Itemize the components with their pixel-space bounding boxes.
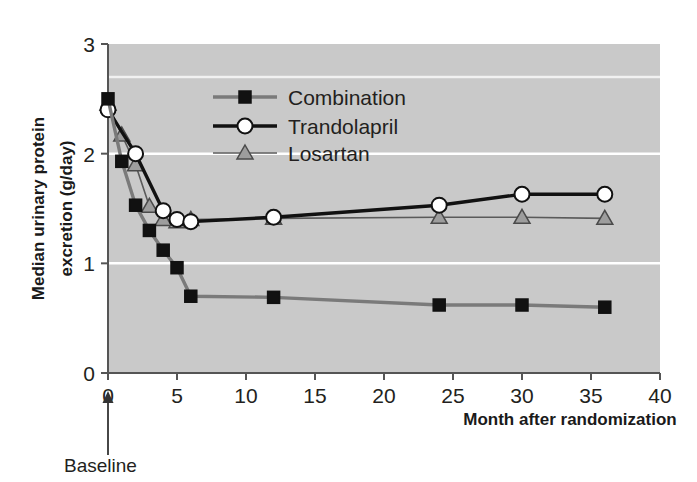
marker-square (268, 291, 280, 303)
marker-square (143, 224, 155, 236)
legend-label: Losartan (288, 142, 370, 165)
marker-square (599, 301, 611, 313)
marker-square (157, 244, 169, 256)
x-tick-label: 25 (441, 384, 464, 407)
marker-square (102, 93, 114, 105)
marker-square (171, 262, 183, 274)
marker-square (130, 199, 142, 211)
protein-excretion-line-chart: 01230510152025303540CombinationTrandolap… (0, 0, 697, 482)
marker-square (433, 299, 445, 311)
x-tick-label: 35 (579, 384, 602, 407)
y-tick-label: 2 (83, 143, 95, 166)
x-tick-label: 20 (372, 384, 395, 407)
marker-circle (266, 210, 281, 225)
x-tick-label: 15 (303, 384, 326, 407)
x-tick-label: 30 (510, 384, 533, 407)
marker-circle (238, 119, 253, 134)
marker-square (185, 290, 197, 302)
marker-circle (183, 214, 198, 229)
marker-circle (597, 187, 612, 202)
y-tick-label: 1 (83, 252, 95, 275)
y-axis-title-line1: Median urinary protein (29, 117, 48, 300)
marker-square (516, 299, 528, 311)
x-tick-label: 40 (648, 384, 671, 407)
marker-circle (156, 203, 171, 218)
marker-square (116, 155, 128, 167)
chart-figure: 01230510152025303540CombinationTrandolap… (0, 0, 697, 482)
x-tick-label: 10 (234, 384, 257, 407)
marker-circle (515, 187, 530, 202)
y-tick-label: 3 (83, 33, 95, 56)
marker-circle (128, 146, 143, 161)
marker-circle (170, 212, 185, 227)
x-tick-label: 5 (171, 384, 183, 407)
baseline-label: Baseline (64, 455, 137, 476)
y-axis-title-line2: excretion (g/day) (57, 140, 76, 276)
y-tick-label: 0 (83, 362, 95, 385)
legend-label: Combination (288, 86, 406, 109)
x-axis-title: Month after randomization (463, 410, 676, 429)
legend-label: Trandolapril (288, 115, 398, 138)
marker-circle (432, 198, 447, 213)
marker-square (239, 91, 251, 103)
